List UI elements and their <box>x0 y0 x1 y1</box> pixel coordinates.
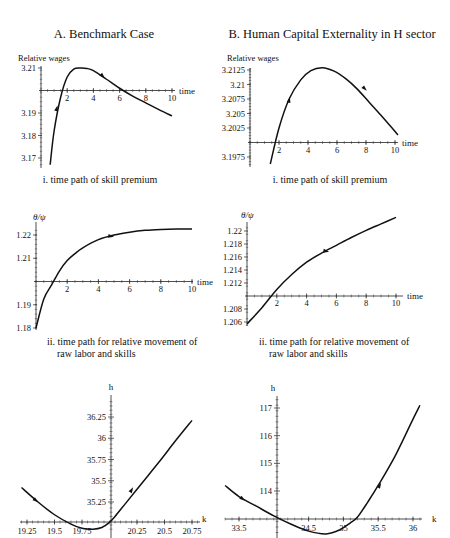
y-tick-label: 3.2125 <box>222 65 245 75</box>
y-tick-label: 1.206 <box>223 317 242 327</box>
y-tick-label: 1.214 <box>223 265 243 275</box>
caption-a-ii-line1: ii. time path for relative movement of <box>47 336 198 347</box>
direction-arrow-icon <box>54 105 58 111</box>
x-tick-label: 35.5 <box>371 523 386 533</box>
x-tick-label: 4 <box>306 145 311 155</box>
chart-a-i: 246810time3.213.193.183.17Relative wages <box>18 53 195 168</box>
x-tick-label: 2 <box>65 93 69 103</box>
y-tick-label: 114 <box>260 486 273 496</box>
y-axis-label: h <box>109 382 114 392</box>
x-tick-label: 19.5 <box>47 526 62 536</box>
x-tick-label: 6 <box>334 298 338 308</box>
chart-b-ii: 246810time1.221.2181.2161.2141.2121.2081… <box>223 210 423 327</box>
x-tick-label: 4 <box>304 298 309 308</box>
y-tick-label: 3.21 <box>230 80 245 90</box>
y-tick-label: 116 <box>260 431 272 441</box>
x-tick-label: 8 <box>364 145 368 155</box>
x-tick-label: 8 <box>159 284 163 294</box>
y-axis-label: Relative wages <box>227 53 279 63</box>
x-tick-label: 20.25 <box>127 526 146 536</box>
y-tick-label: 1.22 <box>227 226 242 236</box>
y-tick-label: 115 <box>260 458 272 468</box>
caption-a-i: i. time path of skill premium <box>43 174 158 185</box>
x-tick-label: 4 <box>96 284 101 294</box>
direction-arrow-icon <box>361 85 366 90</box>
caption-b-ii-line1: ii. time path for relative movement of <box>259 336 410 347</box>
x-tick-label: 4 <box>91 93 96 103</box>
data-curve <box>22 420 193 529</box>
x-tick-label: 10 <box>392 298 401 308</box>
x-tick-label: 20.75 <box>182 526 201 536</box>
y-tick-label: 3.19 <box>21 108 36 118</box>
y-tick-label: 3.21 <box>21 63 36 73</box>
y-tick-label: 3.17 <box>21 153 36 163</box>
x-tick-label: 10 <box>391 145 400 155</box>
x-tick-label: 2 <box>277 145 281 155</box>
data-curve <box>50 68 172 165</box>
x-tick-label: 20.5 <box>157 526 172 536</box>
y-tick-label: 117 <box>260 403 272 413</box>
y-tick-label: 1.212 <box>223 278 242 288</box>
chart-b-i: 246810time3.21253.213.20753.2053.20253.1… <box>222 53 418 167</box>
direction-arrow-icon <box>287 97 291 103</box>
x-tick-label: 10 <box>188 284 197 294</box>
x-tick-label: 2 <box>275 298 279 308</box>
y-tick-label: 3.2025 <box>222 123 245 133</box>
caption-b-i: i. time path of skill premium <box>273 174 388 185</box>
x-tick-label: 2 <box>65 284 69 294</box>
x-tick-label: 6 <box>335 145 339 155</box>
x-tick-label: 33.5 <box>232 523 247 533</box>
caption-a-ii-line2: raw labor and skills <box>57 348 136 359</box>
panel-b-title: B. Human Capital Externality in H sector <box>228 27 436 41</box>
panel-a-title: A. Benchmark Case <box>54 27 155 41</box>
figure-canvas: A. Benchmark Case B. Human Capital Exter… <box>0 0 450 538</box>
y-tick-label: 35.5 <box>91 476 106 486</box>
y-tick-label: 3.205 <box>226 109 245 119</box>
y-tick-label: 3.2075 <box>222 94 245 104</box>
chart-a-iii: 19.2519.519.7520.2520.520.75k36.253635.7… <box>17 382 207 538</box>
y-tick-label: 35.25 <box>87 497 106 507</box>
data-curve <box>36 229 192 328</box>
y-tick-label: 1.18 <box>16 323 31 333</box>
y-tick-label: 35.75 <box>87 455 106 465</box>
chart-b-iii: 33.534.53535.536k117116115114h <box>225 383 437 538</box>
y-tick-label: 1.218 <box>223 239 242 249</box>
caption-b-ii-line2: raw labor and skills <box>269 348 348 359</box>
chart-a-ii: 246810time1.221.211.191.18θ/ψ <box>16 212 213 333</box>
y-tick-label: 36.25 <box>87 412 106 422</box>
y-tick-label: 1.22 <box>16 230 31 240</box>
y-axis-label: h <box>271 383 276 393</box>
x-axis-label: k <box>202 514 207 524</box>
plots-group: 246810time3.213.193.183.17Relative wages… <box>16 53 437 538</box>
data-curve <box>225 405 420 534</box>
x-tick-label: 19.25 <box>17 526 36 536</box>
data-curve <box>247 217 396 324</box>
y-tick-label: 1.208 <box>223 304 242 314</box>
x-tick-label: 6 <box>117 93 121 103</box>
y-tick-label: 1.21 <box>16 253 31 263</box>
x-tick-label: 8 <box>364 298 368 308</box>
x-tick-label: 6 <box>127 284 131 294</box>
x-axis-label: time <box>407 291 423 301</box>
x-axis-label: k <box>432 514 437 524</box>
direction-arrow-icon <box>99 73 104 78</box>
y-tick-label: 1.216 <box>223 252 242 262</box>
x-tick-label: 8 <box>144 93 148 103</box>
y-axis-label: θ/ψ <box>33 212 46 222</box>
x-tick-label: 10 <box>168 93 177 103</box>
y-tick-label: 36 <box>98 433 107 443</box>
x-axis-label: time <box>402 138 418 148</box>
direction-arrow-icon <box>129 487 134 493</box>
y-tick-label: 3.1975 <box>222 152 245 162</box>
y-axis-label: θ/ψ <box>241 210 254 220</box>
y-axis-label: Relative wages <box>18 53 70 63</box>
y-tick-label: 1.19 <box>16 300 31 310</box>
x-axis-label: time <box>179 86 195 96</box>
x-axis-label: time <box>197 277 213 287</box>
y-tick-label: 3.18 <box>21 131 36 141</box>
x-tick-label: 36 <box>409 523 418 533</box>
x-tick-label: 19.75 <box>72 526 91 536</box>
